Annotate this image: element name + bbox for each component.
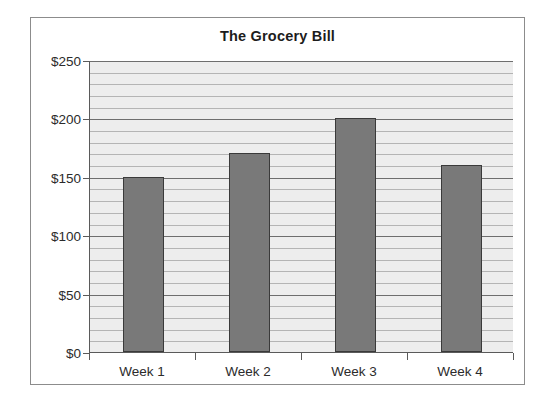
- x-axis-tick-mark: [301, 353, 302, 360]
- bar: [229, 153, 270, 352]
- y-axis-ticks: [31, 61, 91, 353]
- x-axis-category-label: Week 3: [331, 364, 377, 379]
- x-axis-tick-mark: [89, 353, 90, 360]
- chart-frame: The Grocery Bill $0$50$100$150$200$250 W…: [30, 17, 525, 385]
- bar: [335, 118, 376, 352]
- bar: [123, 177, 164, 352]
- plot-area: [89, 61, 513, 353]
- bar: [441, 165, 482, 352]
- x-axis-ticks: [89, 353, 513, 363]
- x-axis-category-label: Week 1: [119, 364, 165, 379]
- x-axis-tick-mark: [195, 353, 196, 360]
- bars-group: [90, 61, 513, 352]
- x-axis-category-label: Week 4: [437, 364, 483, 379]
- x-axis-tick-mark: [513, 353, 514, 360]
- chart-title: The Grocery Bill: [31, 28, 524, 44]
- x-axis-category-label: Week 2: [225, 364, 271, 379]
- x-axis-tick-mark: [407, 353, 408, 360]
- x-axis-labels: Week 1Week 2Week 3Week 4: [89, 364, 513, 390]
